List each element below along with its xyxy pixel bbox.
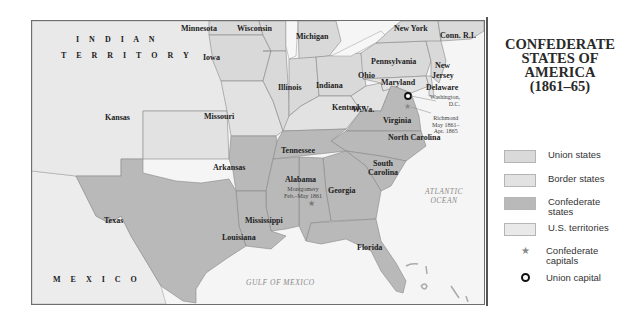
- legend-item-union-states: Union states: [504, 150, 601, 163]
- legend-panel: CONFEDERATE STATES OF AMERICA (1861–65) …: [486, 17, 628, 306]
- union-states-swatch: [504, 150, 536, 163]
- title-line-4: (1861–65): [492, 79, 628, 93]
- label-illinois: Illinois: [278, 83, 302, 92]
- label-new-jersey-2: Jersey: [432, 71, 454, 80]
- legend-label: Union states: [548, 150, 601, 160]
- us-territories-swatch: [504, 223, 536, 236]
- label-north-carolina: North Carolina: [388, 133, 441, 142]
- label-atlantic-ocean: ATLANTICOCEAN: [425, 187, 463, 205]
- star-icon: ★: [504, 246, 534, 256]
- title-line-2: STATES OF: [492, 51, 628, 65]
- label-kansas: Kansas: [105, 113, 130, 122]
- legend-item-confederate-states: Confederatestates: [504, 197, 600, 217]
- label-maryland: Maryland: [381, 78, 415, 87]
- label-alabama: Alabama: [285, 175, 316, 184]
- label-indiana: Indiana: [316, 81, 343, 90]
- label-richmond: RichmondMay 1861–Apr. 1865: [432, 115, 460, 135]
- label-texas: Texas: [104, 216, 123, 225]
- label-indian-territory-1: I N D I A N: [76, 35, 158, 44]
- label-ri: R.I.: [463, 31, 476, 40]
- ring-icon: [504, 273, 534, 284]
- label-minnesota: Minnesota: [181, 24, 217, 33]
- map-frame: ★ ★ I N D I A N T E R R I T O R Y Minnes…: [31, 20, 485, 305]
- legend-label: Union capital: [546, 273, 601, 283]
- title-line-3: AMERICA: [492, 65, 628, 79]
- legend-label: Border states: [548, 174, 605, 184]
- label-arkansas: Arkansas: [213, 163, 245, 172]
- legend-item-confederate-capitals: ★ Confederatecapitals: [504, 246, 598, 266]
- label-virginia: Virginia: [383, 116, 411, 125]
- richmond-star: ★: [404, 102, 411, 111]
- label-ohio: Ohio: [358, 71, 375, 80]
- label-florida: Florida: [357, 243, 382, 252]
- label-michigan: Michigan: [296, 32, 328, 41]
- legend-item-us-territories: U.S. territories: [504, 223, 609, 236]
- label-delaware: Delaware: [426, 83, 458, 92]
- legend-label: Confederatestates: [548, 197, 600, 217]
- label-wisconsin: Wisconsin: [237, 24, 272, 33]
- label-mississippi: Mississippi: [245, 216, 283, 225]
- label-missouri: Missouri: [204, 112, 234, 121]
- label-south-carolina: SouthCarolina: [368, 159, 398, 177]
- label-west-virginia: W. Va.: [352, 105, 374, 114]
- confederate-states-swatch: [504, 197, 536, 210]
- label-gulf-of-mexico: GULF OF MEXICO: [246, 278, 315, 287]
- label-washington: Washington,D.C.: [430, 94, 460, 107]
- label-new-york: New York: [394, 24, 428, 33]
- label-indian-territory-2: T E R R I T O R Y: [61, 51, 193, 60]
- legend-label: Confederatecapitals: [546, 246, 598, 266]
- label-montgomery: MontgomeryFeb.–May 1861: [284, 186, 322, 199]
- title-line-1: CONFEDERATE: [492, 37, 628, 51]
- label-tennessee: Tennessee: [281, 146, 315, 155]
- legend-label: U.S. territories: [548, 223, 609, 233]
- label-mexico: M E X I C O: [53, 275, 141, 284]
- border-states-swatch: [504, 174, 536, 187]
- label-conn: Conn.: [440, 31, 461, 40]
- legend-item-union-capital: Union capital: [504, 273, 601, 284]
- legend-title: CONFEDERATE STATES OF AMERICA (1861–65): [492, 37, 628, 93]
- label-new-jersey-1: New: [435, 61, 450, 70]
- label-pennsylvania: Pennsylvania: [371, 57, 416, 66]
- legend-item-border-states: Border states: [504, 174, 605, 187]
- union-capital-marker: [405, 93, 411, 99]
- label-iowa: Iowa: [203, 53, 220, 62]
- montgomery-star: ★: [308, 199, 315, 208]
- label-georgia: Georgia: [328, 186, 356, 195]
- label-louisiana: Louisiana: [222, 233, 256, 242]
